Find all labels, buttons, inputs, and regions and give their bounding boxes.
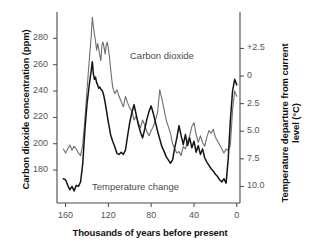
chart-figure: Carbon dioxide concentration (ppm) Tempe… [0, 0, 316, 252]
y-axis-right-tick-label: 10.0 [247, 180, 277, 190]
y-axis-left-tick-label: 260 [22, 59, 48, 69]
x-axis-title: Thousands of years before present [20, 227, 280, 238]
series-annotation-carbon-dioxide: Carbon dioxide [130, 50, 194, 61]
y-axis-left-tick-label: 200 [22, 138, 48, 148]
x-axis-tick-label: 40 [179, 210, 209, 220]
y-axis-left-tick-label: 180 [22, 164, 48, 174]
x-axis-tick-label: 120 [93, 210, 123, 220]
y-axis-right-tick-label: 5.0 [247, 125, 277, 135]
x-axis-tick-label: 0 [222, 210, 252, 220]
series-annotation-temperature-change: Temperature change [92, 181, 179, 192]
series-line-temperature-change [63, 62, 236, 191]
y-axis-left-tick-label: 220 [22, 111, 48, 121]
y-axis-right-tick-label: 7.5 [247, 153, 277, 163]
x-axis-tick-label: 80 [136, 210, 166, 220]
y-axis-left-tick-label: 240 [22, 85, 48, 95]
series-layer [63, 17, 236, 191]
y-axis-right-tick-label: 2.5 [247, 98, 277, 108]
y-axis-right-tick-label: 0 [247, 70, 277, 80]
y-axis-right-tick-label: +2.5 [247, 42, 277, 52]
y-axis-left-tick-label: 280 [22, 32, 48, 42]
x-axis-tick-label: 160 [51, 210, 81, 220]
y-axis-right-title: Temperature departure from current level… [279, 39, 301, 207]
